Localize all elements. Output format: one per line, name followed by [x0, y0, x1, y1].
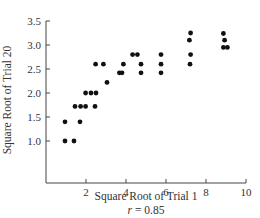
- data-point: [221, 31, 226, 36]
- data-point: [83, 104, 88, 109]
- data-point: [78, 119, 83, 124]
- data-point: [72, 139, 77, 144]
- axes: [46, 21, 246, 183]
- y-tick-label: 2.5: [27, 63, 41, 75]
- data-point: [105, 80, 110, 85]
- data-point: [159, 62, 164, 67]
- data-point: [225, 45, 230, 50]
- y-tick-label: 2.0: [27, 87, 41, 99]
- data-point: [78, 104, 83, 109]
- data-point: [135, 52, 140, 57]
- data-point: [83, 91, 88, 96]
- data-point: [101, 62, 106, 67]
- y-tick-label: 3.5: [27, 15, 41, 27]
- y-axis-label: Square Root of Trial 20: [1, 45, 14, 154]
- data-point: [73, 104, 78, 109]
- data-point: [188, 31, 193, 36]
- correlation-annotation: r = 0.85: [128, 204, 165, 216]
- scatter-plot: 1.01.52.02.53.03.5 246810 Square Root of…: [0, 0, 260, 218]
- data-point: [222, 38, 227, 43]
- x-tick-label: 2: [83, 186, 89, 198]
- data-point: [63, 119, 68, 124]
- data-point: [188, 52, 193, 57]
- x-axis-label: Square Root of Trial 1: [95, 190, 198, 203]
- data-point: [159, 70, 164, 75]
- data-point: [188, 62, 193, 67]
- data-point: [89, 91, 94, 96]
- data-point: [121, 62, 126, 67]
- x-tick-label: 10: [241, 186, 253, 198]
- data-point: [63, 139, 68, 144]
- data-point: [130, 52, 135, 57]
- x-tick-label: 8: [203, 186, 209, 198]
- data-point: [187, 38, 192, 43]
- y-tick-label: 1.5: [27, 111, 41, 123]
- data-point: [159, 52, 164, 57]
- data-point: [120, 70, 125, 75]
- y-tick-label: 1.0: [27, 135, 41, 147]
- y-ticks: 1.01.52.02.53.03.5: [27, 15, 50, 147]
- r-value: = 0.85: [132, 204, 165, 216]
- data-point: [94, 91, 99, 96]
- data-point: [139, 70, 144, 75]
- data-points: [63, 31, 230, 144]
- data-point: [93, 62, 98, 67]
- data-point: [93, 104, 98, 109]
- y-tick-label: 3.0: [27, 39, 41, 51]
- data-point: [139, 62, 144, 67]
